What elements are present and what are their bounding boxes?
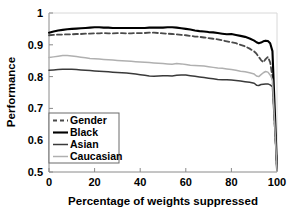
chart-legend: GenderBlackAsianCaucasian xyxy=(49,113,123,163)
y-axis-title: Performance xyxy=(5,57,17,127)
x-tick-label: 100 xyxy=(268,176,286,188)
x-tick-label: 60 xyxy=(180,176,192,188)
x-tick-label: 40 xyxy=(134,176,146,188)
chart-figure: 0.50.60.70.80.91 020406080100 Percentage… xyxy=(0,0,305,213)
x-tick-label: 20 xyxy=(88,176,100,188)
y-tick-label: 0.6 xyxy=(28,134,43,146)
y-tick-label: 0.8 xyxy=(28,71,43,83)
y-tick-label: 0.7 xyxy=(28,102,43,114)
legend-label-black: Black xyxy=(70,126,98,138)
y-tick-label: 0.9 xyxy=(28,39,43,51)
x-tick-label: 0 xyxy=(46,176,52,188)
x-axis-tick-labels: 020406080100 xyxy=(46,176,286,188)
x-tick-label: 80 xyxy=(225,176,237,188)
legend-label-gender: Gender xyxy=(70,114,107,126)
y-axis-tick-labels: 0.50.60.70.80.91 xyxy=(28,7,43,178)
x-axis-title: Percentage of weights suppressed xyxy=(68,195,258,207)
y-tick-label: 0.5 xyxy=(28,166,43,178)
legend-label-caucasian: Caucasian xyxy=(70,150,123,162)
legend-label-asian: Asian xyxy=(70,138,99,150)
performance-line-chart: 0.50.60.70.80.91 020406080100 Percentage… xyxy=(0,0,305,213)
y-tick-label: 1 xyxy=(37,7,43,19)
